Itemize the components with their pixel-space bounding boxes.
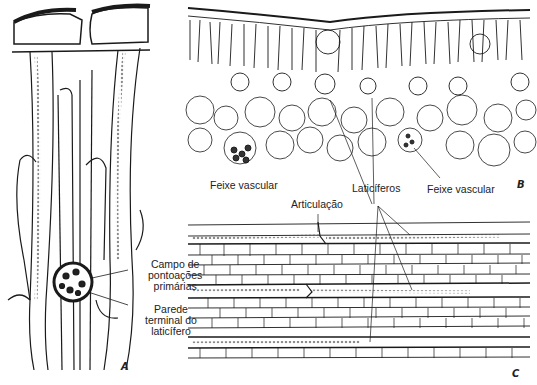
campo-de-pontoacoes-label: Campo de pontoações primárias: [148, 259, 202, 292]
panel-a-drawing: [8, 6, 150, 370]
parede-line3: laticífero: [145, 326, 197, 337]
articulacao-label: Articulação: [291, 199, 343, 210]
feixe-vascular-left-label: Feixe vascular: [210, 180, 278, 191]
panel-b-letter: B: [517, 179, 525, 190]
panel-a-letter: A: [121, 361, 129, 372]
campo-line3: primárias: [148, 281, 202, 292]
panel-c-letter: C: [512, 368, 519, 379]
laticiferos-label: Laticíferos: [352, 183, 400, 194]
panel-c-drawing: [188, 206, 530, 358]
feixe-vascular-right-label: Feixe vascular: [427, 184, 495, 195]
panel-b-drawing: [186, 8, 536, 204]
parede-terminal-label: Parede terminal do laticífero: [145, 304, 197, 337]
